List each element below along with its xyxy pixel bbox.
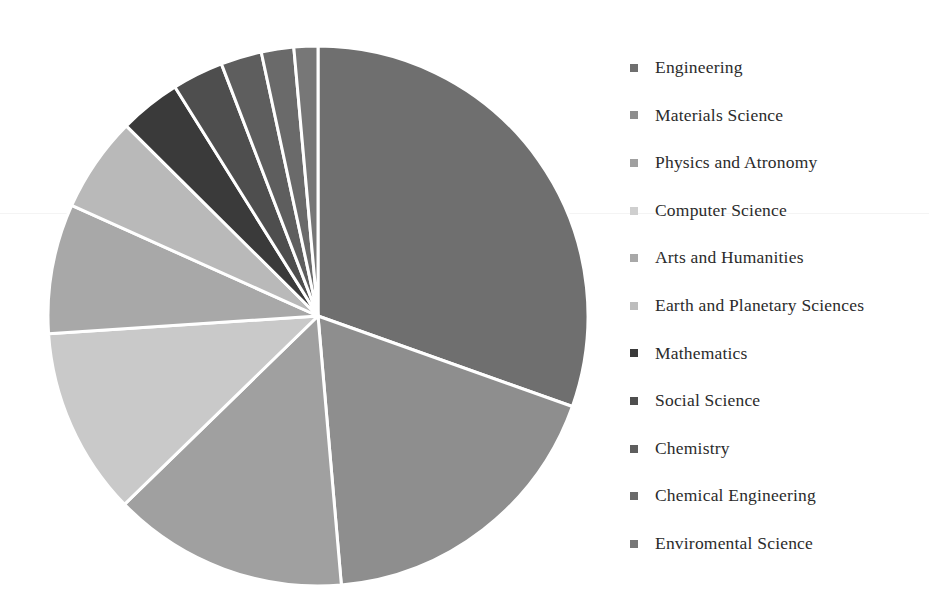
legend-item-label: Earth and Planetary Sciences (655, 297, 864, 315)
legend-item[interactable]: Engineering (626, 44, 926, 92)
legend-swatch-icon (630, 397, 638, 405)
legend-swatch-icon (630, 349, 638, 357)
legend-item[interactable]: Social Science (626, 377, 926, 425)
legend-item[interactable]: Mathematics (626, 330, 926, 378)
legend-item[interactable]: Enviromental Science (626, 520, 926, 568)
legend-item-label: Social Science (655, 392, 760, 410)
legend-item[interactable]: Materials Science (626, 92, 926, 140)
legend-item-label: Mathematics (655, 345, 748, 363)
legend-item-label: Arts and Humanities (655, 249, 804, 267)
legend-item-label: Computer Science (655, 202, 787, 220)
legend-swatch-icon (630, 540, 638, 548)
legend-swatch-icon (630, 254, 638, 262)
chart-legend: EngineeringMaterials SciencePhysics and … (626, 44, 926, 568)
legend-item[interactable]: Chemistry (626, 425, 926, 473)
legend-item-label: Engineering (655, 59, 743, 77)
legend-item[interactable]: Earth and Planetary Sciences (626, 282, 926, 330)
legend-swatch-icon (630, 302, 638, 310)
pie-svg (0, 0, 620, 614)
legend-item-label: Physics and Atronomy (655, 154, 817, 172)
legend-swatch-icon (630, 207, 638, 215)
pie-chart-figure: EngineeringMaterials SciencePhysics and … (0, 0, 929, 614)
legend-item-label: Chemical Engineering (655, 487, 816, 505)
legend-swatch-icon (630, 64, 638, 72)
legend-swatch-icon (630, 492, 638, 500)
legend-item-label: Materials Science (655, 107, 783, 125)
legend-item[interactable]: Physics and Atronomy (626, 139, 926, 187)
legend-item[interactable]: Arts and Humanities (626, 234, 926, 282)
legend-swatch-icon (630, 445, 638, 453)
legend-swatch-icon (630, 111, 638, 119)
legend-item[interactable]: Chemical Engineering (626, 472, 926, 520)
pie-plot-area (0, 0, 620, 614)
legend-item[interactable]: Computer Science (626, 187, 926, 235)
legend-item-label: Enviromental Science (655, 535, 813, 553)
pie-slice-group (48, 46, 588, 586)
legend-swatch-icon (630, 159, 638, 167)
legend-item-label: Chemistry (655, 440, 730, 458)
